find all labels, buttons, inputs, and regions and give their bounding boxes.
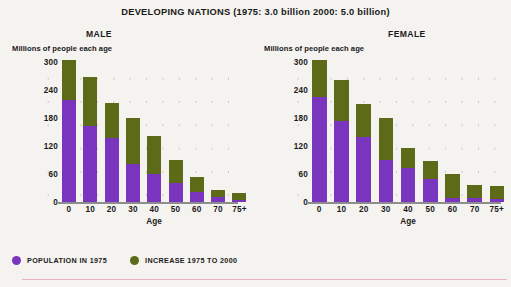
bar-segment-increase — [105, 103, 119, 138]
bar-segment-increase — [169, 160, 183, 183]
bar-stack — [232, 193, 246, 202]
bar-segment-population-1975 — [334, 121, 349, 202]
bar-stack — [356, 104, 371, 202]
bar-segment-population-1975 — [83, 126, 97, 202]
y-axis-tick-label: 120 — [284, 142, 308, 151]
bar-stack — [211, 190, 225, 202]
chart-panel-female: FEMALE Millions of people each age 06012… — [258, 62, 503, 214]
bar-segment-population-1975 — [62, 100, 76, 202]
panel-title-male: MALE — [86, 29, 112, 39]
bar-stack — [62, 60, 76, 202]
bar-segment-population-1975 — [379, 160, 394, 202]
bar-segment-increase — [445, 174, 460, 198]
bar-segment-population-1975 — [190, 192, 204, 202]
x-axis-tick-label: 75+ — [484, 205, 511, 214]
y-axis-tick-label: 0 — [284, 198, 308, 207]
bar-segment-increase — [334, 80, 349, 122]
legend-label: INCREASE 1975 TO 2000 — [145, 256, 237, 265]
bar-stack — [126, 118, 140, 202]
bar-stack — [105, 103, 119, 202]
bar-segment-increase — [401, 148, 416, 168]
y-axis-caption-female: Millions of people each age — [264, 44, 364, 53]
circle-swatch-icon — [12, 256, 21, 265]
bar-stack — [190, 177, 204, 202]
bar-segment-population-1975 — [126, 164, 140, 202]
plot-area-female: 060120180240300 01020304050607075+ Age — [284, 62, 501, 202]
bar-segment-increase — [423, 161, 438, 179]
bar-segment-increase — [490, 186, 505, 199]
y-axis-tick-label: 180 — [34, 114, 58, 123]
bottom-rule — [22, 279, 507, 280]
y-axis-tick-label: 180 — [284, 114, 308, 123]
bar-segment-population-1975 — [356, 137, 371, 202]
bar-segment-population-1975 — [467, 198, 482, 202]
bar-segment-increase — [83, 77, 97, 126]
y-axis-tick-label: 120 — [34, 142, 58, 151]
bar-segment-population-1975 — [312, 97, 327, 202]
bar-segment-increase — [211, 190, 225, 197]
chart-panel-male: MALE Millions of people each age 0601201… — [8, 62, 240, 214]
bar-stack — [379, 118, 394, 202]
y-axis-tick-label: 300 — [34, 58, 58, 67]
bar-segment-population-1975 — [232, 200, 246, 202]
y-axis-tick-label: 240 — [34, 86, 58, 95]
bar-stack — [147, 136, 161, 202]
legend-item-increase-1975-2000: INCREASE 1975 TO 2000 — [130, 256, 237, 265]
x-axis-line-female — [308, 202, 501, 204]
bar-stack — [445, 174, 460, 202]
bar-stack — [401, 148, 416, 202]
y-axis-caption-male: Millions of people each age — [12, 44, 112, 53]
panel-title-female: FEMALE — [388, 29, 426, 39]
bar-stack — [312, 60, 327, 202]
bar-segment-population-1975 — [147, 174, 161, 202]
bar-segment-population-1975 — [490, 199, 505, 202]
figure-title: DEVELOPING NATIONS (1975: 3.0 billion 20… — [0, 7, 511, 17]
bar-segment-increase — [147, 136, 161, 174]
bar-segment-population-1975 — [423, 179, 438, 202]
x-axis-label-female: Age — [308, 217, 508, 226]
bar-stack — [490, 186, 505, 202]
bar-segment-increase — [312, 60, 327, 97]
legend-item-population-1975: POPULATION IN 1975 — [12, 256, 107, 265]
x-axis-tick-label: 75+ — [226, 205, 252, 214]
figure-canvas: DEVELOPING NATIONS (1975: 3.0 billion 20… — [0, 0, 511, 287]
y-axis-tick-label: 300 — [284, 58, 308, 67]
bar-stack — [83, 77, 97, 202]
y-axis-tick-label: 60 — [34, 170, 58, 179]
bar-segment-population-1975 — [105, 138, 119, 202]
bar-segment-population-1975 — [445, 198, 460, 202]
bar-stack — [467, 185, 482, 202]
bar-segment-increase — [467, 185, 482, 199]
bar-segment-increase — [379, 118, 394, 160]
bar-segment-population-1975 — [169, 183, 183, 202]
legend: POPULATION IN 1975 INCREASE 1975 TO 2000 — [12, 256, 237, 265]
bar-segment-population-1975 — [211, 197, 225, 202]
y-axis-tick-label: 0 — [34, 198, 58, 207]
x-axis-label-male: Age — [58, 217, 250, 226]
bar-segment-increase — [356, 104, 371, 138]
y-axis-tick-label: 240 — [284, 86, 308, 95]
bar-segment-increase — [190, 177, 204, 191]
legend-label: POPULATION IN 1975 — [27, 256, 107, 265]
x-axis-line-male — [58, 202, 238, 204]
bar-segment-population-1975 — [401, 168, 416, 202]
bar-stack — [423, 161, 438, 202]
y-axis-tick-label: 60 — [284, 170, 308, 179]
bar-stack — [169, 160, 183, 202]
bar-stack — [334, 80, 349, 202]
plot-area-male: 060120180240300 01020304050607075+ Age — [34, 62, 238, 202]
bar-segment-increase — [62, 60, 76, 101]
circle-swatch-icon — [130, 256, 139, 265]
bar-segment-increase — [126, 118, 140, 164]
